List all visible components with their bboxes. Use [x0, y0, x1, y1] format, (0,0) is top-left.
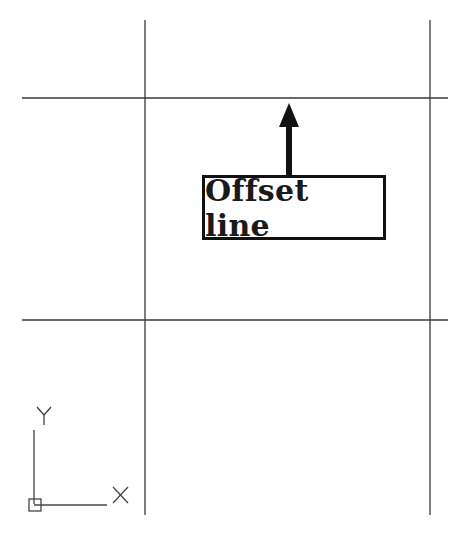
drawing-canvas [0, 0, 468, 536]
y-axis-icon [37, 407, 51, 425]
offset-line-callout: Offset line [202, 175, 386, 240]
callout-arrow-icon [279, 103, 299, 177]
x-axis-icon [113, 487, 128, 503]
callout-label: Offset line [205, 173, 383, 243]
ucs-icon [29, 407, 128, 511]
